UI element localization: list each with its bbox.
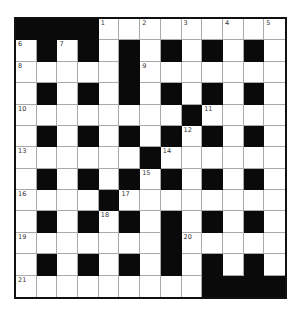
entry-cell[interactable] — [16, 211, 37, 232]
entry-cell[interactable]: 2 — [140, 19, 161, 40]
entry-cell[interactable] — [37, 233, 58, 254]
entry-cell[interactable] — [99, 126, 120, 147]
entry-cell[interactable] — [37, 147, 58, 168]
entry-cell[interactable]: 20 — [182, 233, 203, 254]
entry-cell[interactable] — [182, 211, 203, 232]
entry-cell[interactable]: 7 — [57, 40, 78, 61]
entry-cell[interactable] — [16, 126, 37, 147]
entry-cell[interactable] — [57, 211, 78, 232]
entry-cell[interactable] — [99, 62, 120, 83]
entry-cell[interactable] — [182, 147, 203, 168]
entry-cell[interactable] — [264, 190, 285, 211]
entry-cell[interactable] — [37, 105, 58, 126]
entry-cell[interactable]: 6 — [16, 40, 37, 61]
entry-cell[interactable] — [140, 40, 161, 61]
entry-cell[interactable] — [78, 276, 99, 297]
entry-cell[interactable] — [161, 276, 182, 297]
entry-cell[interactable]: 5 — [264, 19, 285, 40]
entry-cell[interactable] — [119, 19, 140, 40]
entry-cell[interactable] — [78, 233, 99, 254]
entry-cell[interactable] — [223, 233, 244, 254]
entry-cell[interactable] — [244, 62, 265, 83]
entry-cell[interactable] — [57, 147, 78, 168]
entry-cell[interactable] — [37, 276, 58, 297]
entry-cell[interactable] — [119, 105, 140, 126]
entry-cell[interactable] — [202, 62, 223, 83]
entry-cell[interactable] — [223, 254, 244, 275]
entry-cell[interactable] — [99, 40, 120, 61]
entry-cell[interactable] — [223, 147, 244, 168]
entry-cell[interactable]: 8 — [16, 62, 37, 83]
entry-cell[interactable] — [119, 147, 140, 168]
entry-cell[interactable]: 15 — [140, 169, 161, 190]
entry-cell[interactable] — [182, 254, 203, 275]
entry-cell[interactable] — [264, 147, 285, 168]
entry-cell[interactable]: 14 — [161, 147, 182, 168]
entry-cell[interactable]: 12 — [182, 126, 203, 147]
entry-cell[interactable] — [264, 62, 285, 83]
entry-cell[interactable] — [244, 19, 265, 40]
entry-cell[interactable] — [57, 105, 78, 126]
entry-cell[interactable] — [182, 169, 203, 190]
entry-cell[interactable] — [264, 83, 285, 104]
entry-cell[interactable] — [99, 105, 120, 126]
entry-cell[interactable] — [140, 105, 161, 126]
entry-cell[interactable] — [140, 233, 161, 254]
entry-cell[interactable]: 17 — [119, 190, 140, 211]
entry-cell[interactable]: 9 — [140, 62, 161, 83]
entry-cell[interactable] — [99, 83, 120, 104]
entry-cell[interactable] — [202, 190, 223, 211]
entry-cell[interactable] — [264, 233, 285, 254]
entry-cell[interactable] — [140, 190, 161, 211]
entry-cell[interactable] — [182, 62, 203, 83]
entry-cell[interactable] — [264, 169, 285, 190]
entry-cell[interactable]: 4 — [223, 19, 244, 40]
entry-cell[interactable] — [57, 169, 78, 190]
entry-cell[interactable]: 3 — [182, 19, 203, 40]
entry-cell[interactable]: 1 — [99, 19, 120, 40]
entry-cell[interactable] — [140, 211, 161, 232]
entry-cell[interactable] — [140, 126, 161, 147]
entry-cell[interactable] — [140, 83, 161, 104]
entry-cell[interactable] — [57, 83, 78, 104]
entry-cell[interactable] — [182, 83, 203, 104]
entry-cell[interactable] — [140, 276, 161, 297]
entry-cell[interactable] — [16, 83, 37, 104]
entry-cell[interactable] — [223, 169, 244, 190]
entry-cell[interactable] — [57, 126, 78, 147]
entry-cell[interactable] — [244, 190, 265, 211]
entry-cell[interactable] — [264, 40, 285, 61]
entry-cell[interactable] — [37, 190, 58, 211]
entry-cell[interactable] — [161, 62, 182, 83]
entry-cell[interactable] — [16, 169, 37, 190]
entry-cell[interactable] — [57, 190, 78, 211]
entry-cell[interactable] — [264, 254, 285, 275]
entry-cell[interactable] — [244, 233, 265, 254]
entry-cell[interactable] — [223, 40, 244, 61]
entry-cell[interactable] — [244, 147, 265, 168]
entry-cell[interactable] — [99, 169, 120, 190]
entry-cell[interactable] — [264, 105, 285, 126]
entry-cell[interactable]: 13 — [16, 147, 37, 168]
entry-cell[interactable] — [37, 62, 58, 83]
entry-cell[interactable] — [202, 19, 223, 40]
entry-cell[interactable]: 10 — [16, 105, 37, 126]
entry-cell[interactable]: 18 — [99, 211, 120, 232]
entry-cell[interactable] — [16, 254, 37, 275]
entry-cell[interactable] — [57, 276, 78, 297]
entry-cell[interactable] — [78, 147, 99, 168]
entry-cell[interactable] — [78, 190, 99, 211]
entry-cell[interactable] — [223, 211, 244, 232]
entry-cell[interactable] — [202, 147, 223, 168]
entry-cell[interactable] — [119, 276, 140, 297]
entry-cell[interactable] — [161, 105, 182, 126]
entry-cell[interactable] — [223, 190, 244, 211]
entry-cell[interactable] — [99, 276, 120, 297]
entry-cell[interactable] — [223, 62, 244, 83]
entry-cell[interactable] — [223, 83, 244, 104]
entry-cell[interactable] — [161, 19, 182, 40]
entry-cell[interactable] — [78, 105, 99, 126]
entry-cell[interactable] — [182, 190, 203, 211]
entry-cell[interactable] — [78, 62, 99, 83]
entry-cell[interactable] — [161, 190, 182, 211]
